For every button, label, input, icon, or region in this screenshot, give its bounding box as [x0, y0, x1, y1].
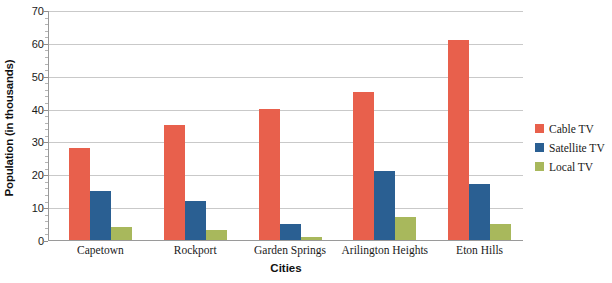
y-axis-tick-label: 0: [18, 235, 44, 247]
y-axis-major-tick: [43, 142, 48, 143]
bar-group: [259, 11, 322, 240]
x-axis-tick-label: Rockport: [174, 244, 217, 256]
y-axis-minor-tick: [45, 202, 48, 203]
legend-label: Local TV: [549, 161, 593, 173]
bar-group: [164, 11, 227, 240]
legend-item: Cable TV: [535, 119, 612, 138]
y-axis-minor-tick: [45, 64, 48, 65]
y-axis-title-label: Population (in thousands): [3, 59, 15, 196]
y-axis-minor-tick: [45, 31, 48, 32]
y-axis-minor-tick: [45, 228, 48, 229]
x-axis-tick-label: Arilington Heights: [342, 244, 429, 256]
legend-item: Satellite TV: [535, 138, 612, 157]
plot-area: [49, 11, 523, 241]
bar: [448, 40, 469, 240]
legend-item: Local TV: [535, 157, 612, 176]
y-axis-minor-tick: [45, 83, 48, 84]
bar: [164, 125, 185, 240]
legend-swatch-icon: [535, 162, 544, 171]
legend-label: Satellite TV: [549, 142, 605, 154]
bar-group: [353, 11, 416, 240]
x-axis-title: Cities: [49, 262, 523, 274]
y-axis-major-tick: [43, 175, 48, 176]
bar-group: [69, 11, 132, 240]
y-axis-minor-tick: [45, 221, 48, 222]
bar: [469, 184, 490, 240]
y-axis-major-tick: [43, 208, 48, 209]
legend-swatch-icon: [535, 124, 544, 133]
legend-label: Cable TV: [549, 123, 594, 135]
bar: [259, 109, 280, 240]
y-axis-minor-tick: [45, 90, 48, 91]
y-axis-minor-tick: [45, 162, 48, 163]
bar: [185, 201, 206, 240]
x-axis-baseline: [49, 240, 523, 241]
y-axis-minor-tick: [45, 188, 48, 189]
y-axis-minor-tick: [45, 149, 48, 150]
y-axis-minor-tick: [45, 70, 48, 71]
y-axis-minor-tick: [45, 129, 48, 130]
y-axis-tick-label: 10: [18, 202, 44, 214]
y-axis-minor-tick: [45, 215, 48, 216]
y-axis-major-tick: [43, 44, 48, 45]
y-axis-tick-labels: 010203040506070: [18, 0, 48, 255]
y-axis-major-tick: [43, 11, 48, 12]
x-axis-tick-labels: CapetownRockportGarden SpringsArilington…: [49, 244, 523, 262]
y-axis-minor-tick: [45, 50, 48, 51]
x-axis-tick-label: Garden Springs: [254, 244, 326, 256]
x-axis-tick-label: Capetown: [77, 244, 124, 256]
y-axis-minor-tick: [45, 18, 48, 19]
bar: [353, 92, 374, 240]
y-axis-minor-tick: [45, 234, 48, 235]
bar-group: [448, 11, 511, 240]
y-axis-minor-tick: [45, 169, 48, 170]
y-axis-major-tick: [43, 241, 48, 242]
bar: [490, 224, 511, 240]
y-axis-major-tick: [43, 77, 48, 78]
y-axis-tick-label: 40: [18, 104, 44, 116]
y-axis-minor-tick: [45, 37, 48, 38]
y-axis-tick-label: 20: [18, 169, 44, 181]
bar: [301, 237, 322, 240]
y-axis-tick-label: 60: [18, 38, 44, 50]
y-axis-tick-label: 50: [18, 71, 44, 83]
y-axis-minor-tick: [45, 116, 48, 117]
legend: Cable TVSatellite TVLocal TV: [535, 119, 612, 176]
bar: [206, 230, 227, 240]
bar: [280, 224, 301, 240]
y-axis-minor-tick: [45, 195, 48, 196]
y-axis-minor-tick: [45, 136, 48, 137]
bar: [90, 191, 111, 240]
x-axis-tick-label: Eton Hills: [456, 244, 503, 256]
y-axis-minor-tick: [45, 103, 48, 104]
y-axis-minor-tick: [45, 24, 48, 25]
bar: [395, 217, 416, 240]
y-axis-minor-tick: [45, 156, 48, 157]
y-axis-minor-tick: [45, 123, 48, 124]
bar: [69, 148, 90, 240]
legend-swatch-icon: [535, 143, 544, 152]
y-axis-major-tick: [43, 110, 48, 111]
bar-chart: Population (in thousands) 01020304050607…: [0, 0, 612, 283]
y-axis-tick-label: 30: [18, 136, 44, 148]
y-axis-tick-label: 70: [18, 5, 44, 17]
y-axis-minor-tick: [45, 182, 48, 183]
bar: [111, 227, 132, 240]
y-axis-minor-tick: [45, 96, 48, 97]
y-axis-title: Population (in thousands): [0, 0, 18, 255]
y-axis-minor-tick: [45, 57, 48, 58]
bar: [374, 171, 395, 240]
